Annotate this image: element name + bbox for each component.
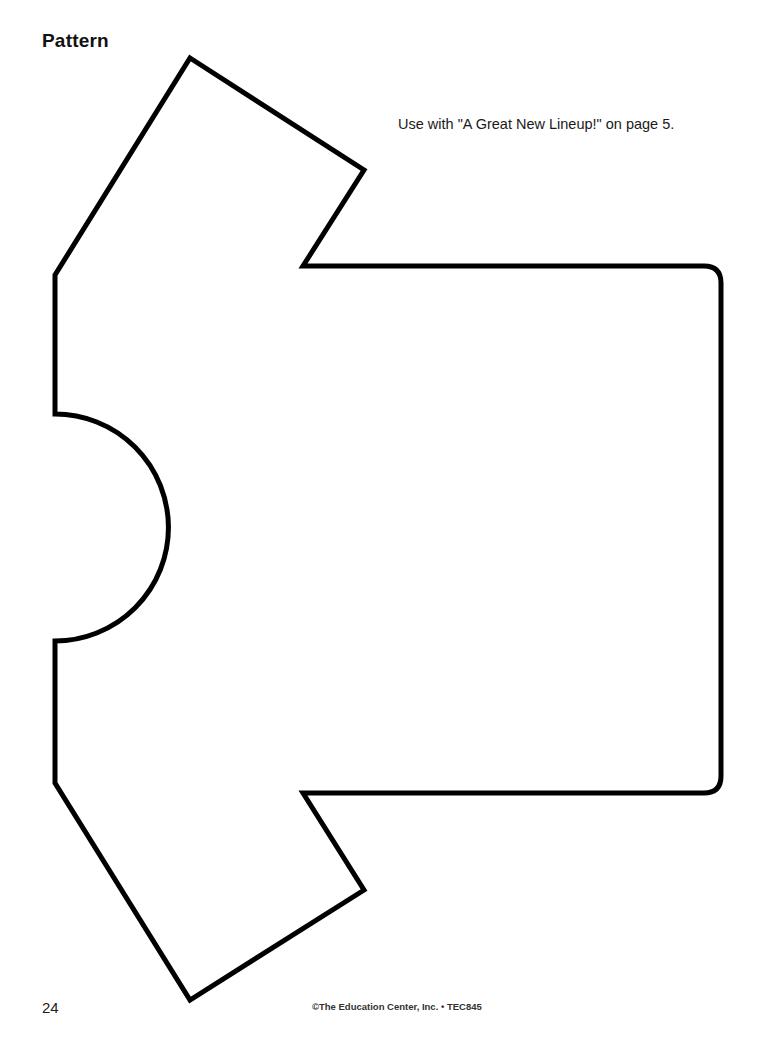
page-number: 24: [42, 999, 59, 1016]
t-shirt-pattern-outline: [0, 0, 759, 1042]
t-shirt-outline-path: [55, 58, 721, 1000]
copyright-notice: ©The Education Center, Inc. • TEC845: [312, 1001, 482, 1012]
